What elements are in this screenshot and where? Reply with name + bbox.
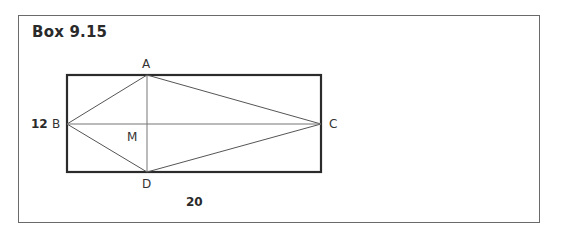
segment-dc: [147, 124, 321, 172]
point-label-a: A: [142, 58, 150, 70]
kite-diagram: [0, 0, 561, 241]
point-label-m: M: [127, 131, 137, 143]
point-label-c: C: [329, 118, 337, 130]
height-dimension-label: 12: [31, 118, 48, 130]
segment-ab: [67, 75, 147, 124]
width-dimension-label: 20: [186, 196, 203, 208]
segment-ac: [147, 75, 321, 124]
point-label-d: D: [142, 178, 151, 190]
point-label-b: B: [52, 118, 60, 130]
